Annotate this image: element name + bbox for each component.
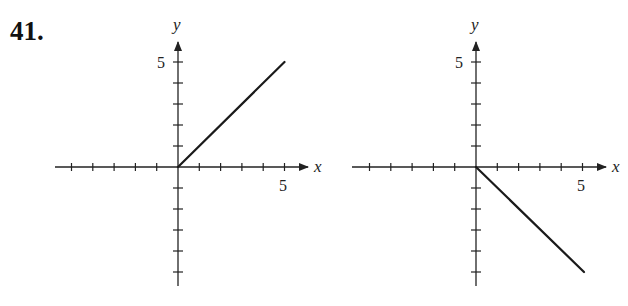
plot-line-1 bbox=[178, 62, 285, 167]
y-tick-label-5: 5 bbox=[455, 54, 463, 71]
x-axis-label: x bbox=[611, 157, 620, 176]
graphs-canvas: 5 5 x y bbox=[0, 0, 628, 306]
x-tick-label-5: 5 bbox=[279, 177, 287, 194]
x-tick-label-5: 5 bbox=[577, 177, 585, 194]
graph-2: 5 5 x y bbox=[352, 15, 620, 286]
y-axis-label: y bbox=[171, 15, 181, 34]
graph-1: 5 5 x y bbox=[55, 15, 322, 286]
y-axis-label: y bbox=[469, 15, 479, 34]
y-tick-label-5: 5 bbox=[157, 54, 165, 71]
plot-line-2 bbox=[476, 167, 584, 272]
x-axis-label: x bbox=[313, 157, 322, 176]
